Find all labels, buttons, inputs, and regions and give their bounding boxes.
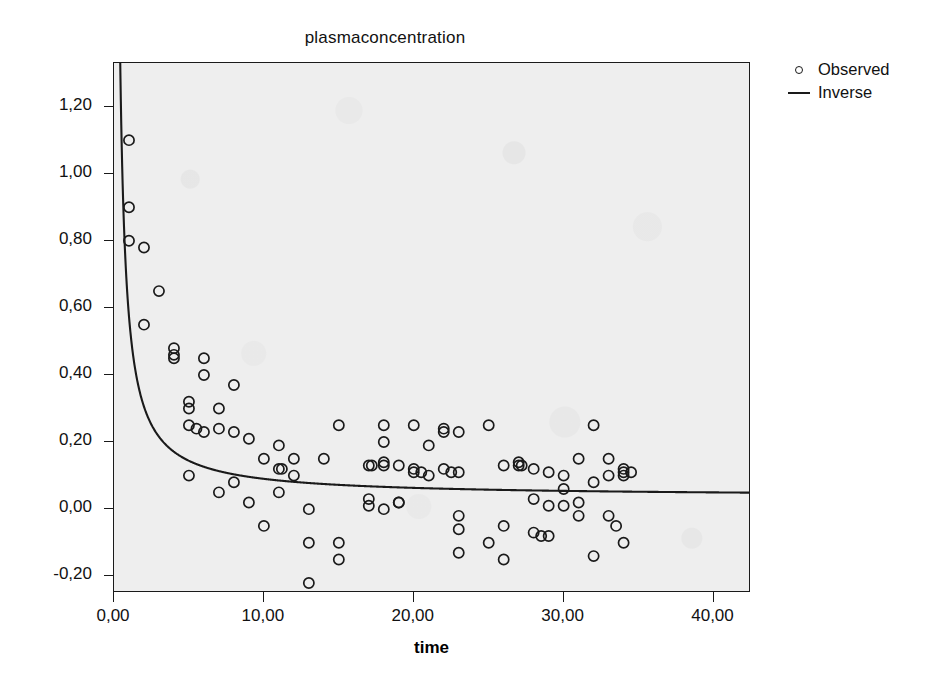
- data-point: [454, 467, 464, 477]
- y-tick-mark: [104, 106, 113, 107]
- data-point: [199, 353, 209, 363]
- plot-graphics: [114, 63, 750, 592]
- data-point: [274, 487, 284, 497]
- data-point: [484, 420, 494, 430]
- page-title: plasmaconcentration: [0, 28, 770, 48]
- plot-area: [113, 62, 750, 592]
- data-point: [544, 531, 554, 541]
- legend-item-observed: Observed: [786, 58, 936, 81]
- data-point: [559, 501, 569, 511]
- data-point: [229, 380, 239, 390]
- data-point: [184, 470, 194, 480]
- data-point: [229, 477, 239, 487]
- data-point: [289, 454, 299, 464]
- data-point: [259, 454, 269, 464]
- data-point: [529, 494, 539, 504]
- data-point: [379, 437, 389, 447]
- data-point: [574, 497, 584, 507]
- observed-points: [124, 135, 636, 588]
- chart-canvas: plasmaconcentration time Observed Invers…: [0, 0, 945, 700]
- data-point: [394, 497, 404, 507]
- data-point: [334, 420, 344, 430]
- data-point: [304, 504, 314, 514]
- data-point: [394, 460, 404, 470]
- y-tick-mark: [104, 575, 113, 576]
- x-axis-label: time: [113, 638, 750, 658]
- line-icon: [786, 92, 812, 94]
- legend-label-observed: Observed: [812, 60, 890, 79]
- data-point: [124, 202, 134, 212]
- data-point: [424, 440, 434, 450]
- data-point: [604, 454, 614, 464]
- open-circle-icon: [786, 66, 812, 74]
- data-point: [409, 420, 419, 430]
- y-tick-label: 1,20: [18, 95, 92, 115]
- data-point: [289, 470, 299, 480]
- data-point: [574, 454, 584, 464]
- data-point: [589, 420, 599, 430]
- data-point: [229, 427, 239, 437]
- data-point: [589, 477, 599, 487]
- y-tick-mark: [104, 240, 113, 241]
- x-tick-label: 30,00: [518, 606, 608, 626]
- data-point: [364, 501, 374, 511]
- data-point: [259, 521, 269, 531]
- data-point: [619, 538, 629, 548]
- data-point: [379, 420, 389, 430]
- x-tick-label: 40,00: [668, 606, 758, 626]
- legend-label-inverse: Inverse: [812, 83, 872, 102]
- y-tick-mark: [104, 508, 113, 509]
- data-point: [544, 467, 554, 477]
- legend: Observed Inverse: [786, 58, 936, 104]
- data-point: [544, 501, 554, 511]
- data-point: [454, 511, 464, 521]
- x-tick-mark: [563, 592, 564, 602]
- data-point: [184, 403, 194, 413]
- data-point: [244, 497, 254, 507]
- y-tick-label: 0,40: [18, 363, 92, 383]
- x-tick-label: 20,00: [368, 606, 458, 626]
- data-point: [274, 440, 284, 450]
- data-point: [454, 427, 464, 437]
- data-point: [214, 487, 224, 497]
- y-tick-label: 0,00: [18, 497, 92, 517]
- data-point: [334, 538, 344, 548]
- y-tick-label: 1,00: [18, 162, 92, 182]
- data-point: [454, 524, 464, 534]
- data-point: [334, 554, 344, 564]
- data-point: [559, 470, 569, 480]
- data-point: [304, 578, 314, 588]
- y-tick-mark: [104, 374, 113, 375]
- data-point: [589, 551, 599, 561]
- data-point: [611, 521, 621, 531]
- data-point: [604, 470, 614, 480]
- y-tick-mark: [104, 307, 113, 308]
- data-point: [304, 538, 314, 548]
- legend-item-inverse: Inverse: [786, 81, 936, 104]
- x-tick-label: 10,00: [218, 606, 308, 626]
- data-point: [214, 424, 224, 434]
- data-point: [199, 370, 209, 380]
- data-point: [214, 403, 224, 413]
- y-tick-mark: [104, 441, 113, 442]
- data-point: [124, 135, 134, 145]
- x-tick-mark: [113, 592, 114, 602]
- y-tick-label: 0,20: [18, 430, 92, 450]
- data-point: [454, 548, 464, 558]
- data-point: [379, 504, 389, 514]
- data-point: [529, 464, 539, 474]
- y-tick-label: 0,80: [18, 229, 92, 249]
- x-tick-mark: [713, 592, 714, 602]
- data-point: [139, 320, 149, 330]
- data-point: [499, 554, 509, 564]
- x-tick-label: 0,00: [68, 606, 158, 626]
- data-point: [139, 242, 149, 252]
- data-point: [604, 511, 614, 521]
- y-tick-mark: [104, 173, 113, 174]
- data-point: [244, 434, 254, 444]
- data-point: [154, 286, 164, 296]
- data-point: [499, 460, 509, 470]
- data-point: [559, 484, 569, 494]
- y-tick-label: 0,60: [18, 296, 92, 316]
- data-point: [484, 538, 494, 548]
